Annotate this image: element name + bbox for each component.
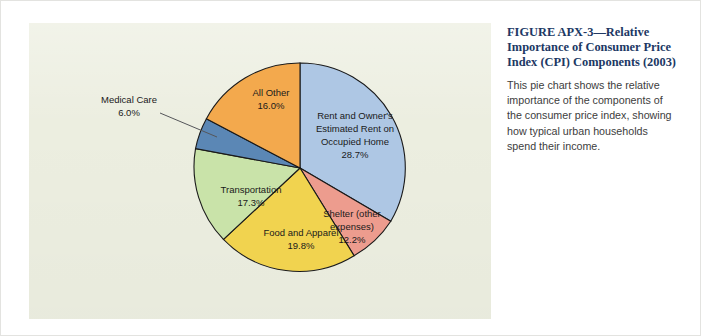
figure-page: Rent and Owner's Estimated Rent on Occup…: [0, 0, 701, 336]
label-rent-line2: Estimated Rent on: [316, 123, 394, 134]
label-rent-value: 28.7%: [342, 149, 369, 160]
label-shelter-value: 12.2%: [339, 234, 366, 245]
medical-care-callout: Medical Care 6.0%: [101, 94, 217, 137]
figure-caption: FIGURE APX-3—Relative Importance of Cons…: [507, 25, 679, 155]
label-rent-line3: Occupied Home: [321, 136, 389, 147]
caption-body: This pie chart shows the relative import…: [507, 78, 679, 155]
label-transportation-value: 17.3%: [238, 197, 265, 208]
label-rent-line1: Rent and Owner's: [317, 110, 393, 121]
label-medical-care-line1: Medical Care: [101, 94, 157, 105]
label-all-other-line1: All Other: [253, 87, 290, 98]
label-transportation-line1: Transportation: [221, 184, 282, 195]
label-food-line1: Food and Apparel: [263, 227, 338, 238]
label-food-value: 19.8%: [288, 240, 315, 251]
label-shelter-line1: Shelter (other: [323, 208, 381, 219]
cpi-pie-chart: Rent and Owner's Estimated Rent on Occup…: [29, 23, 491, 319]
caption-title: FIGURE APX-3—Relative Importance of Cons…: [507, 25, 679, 71]
label-all-other-value: 16.0%: [258, 100, 285, 111]
label-medical-care-value: 6.0%: [118, 107, 140, 118]
caption-title-lead: FIGURE APX-3—: [507, 25, 606, 39]
